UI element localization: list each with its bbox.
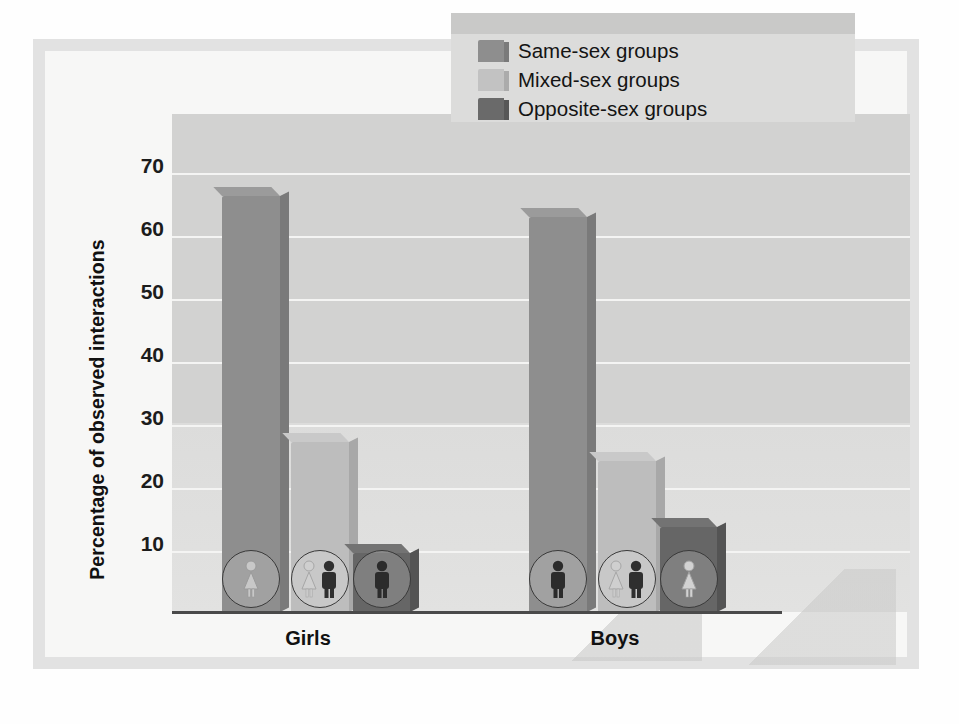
bar-girls-opposite-sex[interactable]: [353, 553, 410, 612]
bar-boys-same-sex[interactable]: [529, 217, 587, 612]
female-male-pair-icon: [291, 550, 349, 608]
gridline-70: [172, 173, 910, 175]
bar-side: [717, 523, 726, 612]
y-tick-50: 50: [120, 280, 164, 304]
y-tick-70: 70: [120, 154, 164, 178]
female-male-pair-icon: [598, 550, 656, 608]
bar-top: [520, 208, 587, 217]
legend-item-mixed-sex[interactable]: Mixed-sex groups: [478, 67, 680, 93]
y-axis-title: Percentage of observed interactions: [86, 195, 109, 625]
bar-boys-opposite-sex[interactable]: [660, 527, 717, 612]
legend-label-opposite-sex: Opposite-sex groups: [518, 97, 707, 121]
y-tick-30: 30: [120, 406, 164, 430]
male-figure-icon: [353, 550, 411, 608]
bar-side: [280, 192, 289, 612]
bar-girls-same-sex[interactable]: [222, 196, 280, 612]
female-figure-icon: [222, 550, 280, 608]
legend-label-mixed-sex: Mixed-sex groups: [518, 68, 680, 92]
bar-top: [589, 452, 656, 461]
legend-swatch-opposite-sex: [478, 98, 504, 120]
legend-item-opposite-sex[interactable]: Opposite-sex groups: [478, 96, 707, 122]
bar-girls-mixed-sex[interactable]: [291, 442, 349, 612]
male-figure-icon: [529, 550, 587, 608]
y-tick-60: 60: [120, 217, 164, 241]
female-figure-icon: [660, 550, 718, 608]
bar-side: [410, 549, 419, 612]
legend-swatch-same-sex: [478, 40, 504, 62]
y-axis-title-container: Percentage of observed interactions: [62, 130, 102, 560]
y-tick-20: 20: [120, 469, 164, 493]
legend: Same-sex groups Mixed-sex groups Opposit…: [451, 13, 855, 122]
group-label-boys: Boys: [545, 627, 685, 650]
legend-item-same-sex[interactable]: Same-sex groups: [478, 38, 679, 64]
group-label-girls: Girls: [238, 627, 378, 650]
legend-label-same-sex: Same-sex groups: [518, 39, 679, 63]
legend-header-bar: [451, 13, 855, 34]
bar-side: [587, 213, 596, 612]
x-axis-line: [172, 611, 782, 614]
bar-top: [213, 187, 280, 196]
bar-boys-mixed-sex[interactable]: [598, 461, 656, 612]
bar-top: [282, 433, 349, 442]
legend-swatch-mixed-sex: [478, 69, 504, 91]
y-tick-10: 10: [120, 532, 164, 556]
bar-top: [651, 518, 717, 527]
y-tick-40: 40: [120, 343, 164, 367]
chart-screenshot: Percentage of observed interactions 70 6…: [0, 0, 959, 724]
